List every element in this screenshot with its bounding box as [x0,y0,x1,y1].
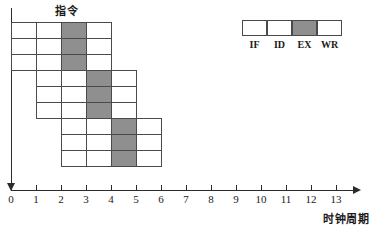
x-axis-tick-label: 7 [176,193,196,206]
y-axis-title: 指令 [55,2,78,18]
pipeline-stage-cell-wr [86,38,112,55]
pipeline-stage-cell-wr [111,102,137,119]
pipeline-stage-cell-id [36,54,62,71]
pipeline-spacetime-diagram: 指令 时钟周期 012345678910111213 IFIDEXWR [0,0,377,238]
x-axis-tick-label: 10 [251,193,271,206]
x-axis-tick [311,185,312,190]
pipeline-stage-cell-ex [61,54,87,71]
x-axis-arrow-icon [353,186,361,194]
pipeline-stage-cell-ex [86,70,112,87]
x-axis-tick-label: 11 [276,193,296,206]
pipeline-stage-cell-ex [111,118,137,135]
pipeline-stage-cell-id [61,102,87,119]
pipeline-stage-cell-ex [86,86,112,103]
pipeline-stage-cell-ex [61,38,87,55]
x-axis-tick-label: 8 [201,193,221,206]
pipeline-stage-cell-if [61,134,87,151]
pipeline-stage-cell-id [61,70,87,87]
x-axis-tick-label: 6 [151,193,171,206]
pipeline-stage-cell-wr [136,118,162,135]
pipeline-stage-cell-if [61,118,87,135]
pipeline-stage-cell-if [61,150,87,167]
x-axis-tick-label: 2 [51,193,71,206]
x-axis-tick [261,185,262,190]
pipeline-stage-cell-wr [136,150,162,167]
x-axis-tick [136,185,137,190]
pipeline-stage-cell-id [36,22,62,39]
pipeline-stage-cell-if [36,70,62,87]
pipeline-stage-cell-id [36,38,62,55]
legend-label-ex: EX [292,39,317,50]
pipeline-stage-cell-wr [111,86,137,103]
pipeline-stage-cell-ex [111,150,137,167]
pipeline-stage-cell-wr [111,70,137,87]
x-axis-tick-label: 3 [76,193,96,206]
x-axis-tick [236,185,237,190]
x-axis-tick [336,185,337,190]
x-axis-tick [36,185,37,190]
pipeline-stage-cell-if [11,38,37,55]
x-axis-tick-label: 1 [26,193,46,206]
pipeline-stage-cell-if [36,86,62,103]
x-axis-tick-label: 5 [126,193,146,206]
pipeline-stage-cell-ex [86,102,112,119]
x-axis-tick [211,185,212,190]
pipeline-stage-cell-if [36,102,62,119]
x-axis-tick-label: 0 [1,193,21,206]
x-axis-tick-label: 4 [101,193,121,206]
legend-box-ex [292,20,317,36]
x-axis-tick-label: 13 [326,193,346,206]
pipeline-stage-cell-if [11,22,37,39]
x-axis-tick-label: 12 [301,193,321,206]
pipeline-stage-cell-id [61,86,87,103]
pipeline-stage-cell-wr [136,134,162,151]
x-axis-tick [11,185,12,190]
legend-label-wr: WR [317,39,342,50]
legend-box-id [267,20,292,36]
x-axis-tick [61,185,62,190]
x-axis-title: 时钟周期 [323,210,369,226]
legend-label-id: ID [267,39,292,50]
pipeline-stage-cell-id [86,134,112,151]
pipeline-stage-cell-wr [86,54,112,71]
x-axis-tick [286,185,287,190]
legend-label-if: IF [242,39,267,50]
pipeline-stage-cell-id [86,118,112,135]
x-axis-tick [161,185,162,190]
legend-box-if [242,20,267,36]
x-axis-tick [186,185,187,190]
pipeline-stage-cell-id [86,150,112,167]
x-axis-line [11,190,356,191]
x-axis-tick [111,185,112,190]
pipeline-stage-cell-if [11,54,37,71]
pipeline-stage-cell-ex [111,134,137,151]
pipeline-stage-cell-wr [86,22,112,39]
x-axis-tick-label: 9 [226,193,246,206]
pipeline-stage-cell-ex [61,22,87,39]
x-axis-tick [86,185,87,190]
legend-box-wr [317,20,342,36]
